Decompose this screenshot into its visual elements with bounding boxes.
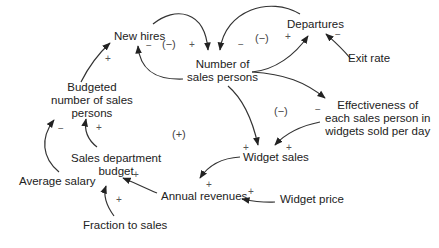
node-number-line1: Number of [187, 58, 258, 71]
loop-marker-effectiveness: (−) [274, 105, 288, 117]
arrow-number-to-widgetsales [228, 86, 258, 145]
sign-budget-to-budgeted: + [96, 123, 102, 133]
sign-departures-to-number: − [238, 40, 244, 50]
sign-exit-to-departures: − [335, 30, 341, 40]
sign-revenues-to-budget: + [133, 170, 139, 180]
arrow-salary-to-budgeted [45, 120, 59, 172]
arrow-effectiveness-to-widgetsales [275, 122, 320, 145]
sign-number-to-widgetsales: + [243, 143, 249, 153]
node-annual-revenues-label: Annual revenues [161, 190, 247, 202]
node-new-hires-label: New hires [114, 30, 165, 42]
node-fraction-to-sales-label: Fraction to sales [83, 219, 167, 231]
sign-number-to-departures: + [285, 32, 291, 42]
arrow-fraction-to-budget [105, 186, 114, 216]
node-budgeted-line1: Budgeted [51, 81, 133, 94]
node-annual-revenues: Annual revenues [161, 190, 247, 203]
loop-marker-hiring: (−) [162, 38, 176, 50]
sign-number-to-effectiveness: − [315, 105, 321, 115]
loop-marker-departures: (−) [255, 32, 269, 44]
node-budget-line1: Sales department [71, 152, 161, 165]
arrow-number-to-effectiveness [252, 72, 325, 98]
sign-widgetsales-to-revenues: + [206, 180, 212, 190]
node-budgeted-number-of-sales-persons: Budgeted number of sales persons [51, 81, 133, 120]
node-average-salary: Average salary [19, 175, 96, 188]
arrow-widgetsales-to-revenues [200, 157, 240, 178]
node-effectiveness-line1: Effectiveness of [325, 99, 430, 112]
sign-widgetprice-to-revenues: + [248, 187, 254, 197]
node-effectiveness-line2: each sales person in [325, 112, 430, 125]
node-exit-rate: Exit rate [348, 52, 390, 65]
node-number-line2: sales persons [187, 71, 258, 84]
causal-loop-diagram: New hires Number of sales persons Depart… [0, 0, 439, 248]
node-effectiveness: Effectiveness of each sales person in wi… [325, 99, 430, 138]
sign-hires-to-number: + [189, 40, 195, 50]
node-effectiveness-line3: widgets sold per day [325, 125, 430, 138]
sign-budgeted-to-hires: + [105, 54, 111, 64]
node-budgeted-line3: persons [51, 107, 133, 120]
node-average-salary-label: Average salary [19, 175, 96, 187]
node-budgeted-line2: number of sales [51, 94, 133, 107]
node-widget-price-label: Widget price [280, 193, 344, 205]
node-new-hires: New hires [114, 30, 165, 43]
loop-marker-growth: (+) [172, 128, 186, 140]
node-widget-sales: Widget sales [243, 151, 309, 164]
node-number-of-sales-persons: Number of sales persons [187, 58, 258, 84]
arrow-number-to-newhires [138, 46, 183, 79]
node-exit-rate-label: Exit rate [348, 52, 390, 64]
node-widget-sales-label: Widget sales [243, 151, 309, 163]
arrow-revenues-to-budget [123, 178, 157, 193]
sign-number-to-hires: − [146, 41, 152, 51]
sign-salary-to-budgeted: − [58, 124, 64, 134]
sign-effectiveness-to-widgetsales: + [286, 143, 292, 153]
node-fraction-to-sales: Fraction to sales [83, 219, 167, 232]
node-widget-price: Widget price [280, 193, 344, 206]
sign-fraction-to-budget: + [116, 195, 122, 205]
